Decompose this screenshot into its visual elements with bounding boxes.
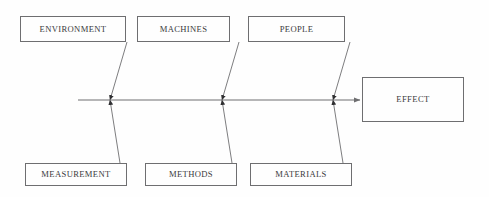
category-box-measurement[interactable]: MEASUREMENT	[25, 163, 127, 186]
category-box-machines[interactable]: MACHINES	[137, 16, 230, 42]
category-label-environment: ENVIRONMENT	[40, 25, 107, 34]
rib-line-machines	[222, 42, 239, 100]
category-box-people[interactable]: PEOPLE	[248, 16, 345, 42]
category-box-environment[interactable]: ENVIRONMENT	[20, 16, 126, 42]
category-label-measurement: MEASUREMENT	[41, 170, 110, 179]
category-label-methods: METHODS	[169, 170, 213, 179]
category-label-materials: MATERIALS	[275, 170, 326, 179]
rib-line-methods	[222, 100, 232, 163]
category-box-materials[interactable]: MATERIALS	[250, 163, 352, 186]
rib-line-measurement	[110, 100, 120, 163]
rib-lines-group	[110, 42, 350, 163]
effect-box[interactable]: EFFECT	[362, 77, 464, 122]
effect-label: EFFECT	[396, 95, 429, 104]
rib-line-environment	[110, 42, 127, 100]
rib-line-people	[333, 42, 350, 100]
category-label-people: PEOPLE	[280, 25, 314, 34]
category-box-methods[interactable]: METHODS	[145, 163, 237, 186]
rib-line-materials	[333, 100, 343, 163]
category-label-machines: MACHINES	[160, 25, 208, 34]
fishbone-diagram-canvas: ENVIRONMENT MACHINES PEOPLE MEASUREMENT …	[0, 0, 489, 197]
